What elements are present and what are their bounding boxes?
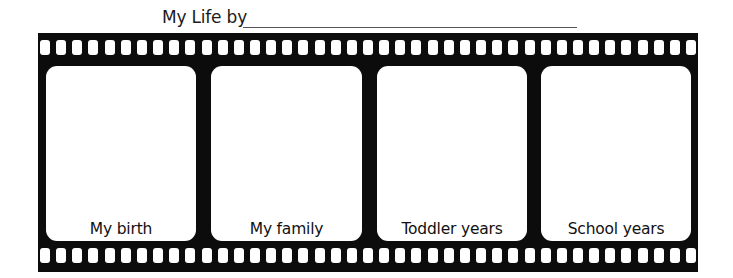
sprocket-hole (363, 40, 373, 55)
sprocket-hole (428, 40, 438, 55)
frame-my-family[interactable]: My family (211, 66, 362, 241)
sprocket-hole (476, 40, 486, 55)
sprocket-hole (541, 40, 551, 55)
sprocket-hole (379, 40, 389, 55)
sprocket-hole (137, 248, 147, 263)
sprocket-hole (460, 248, 470, 263)
sprocket-hole (72, 40, 82, 55)
sprocket-hole (56, 40, 66, 55)
worksheet-title: My Life by (0, 4, 733, 30)
sprocket-hole (266, 248, 276, 263)
sprocket-hole (573, 40, 583, 55)
sprocket-hole (218, 40, 228, 55)
sprocket-hole (56, 248, 66, 263)
sprocket-hole (105, 40, 115, 55)
frame-label: My family (211, 220, 362, 238)
sprocket-hole (218, 248, 228, 263)
sprocket-hole (525, 248, 535, 263)
sprocket-hole (573, 248, 583, 263)
sprocket-hole (298, 40, 308, 55)
sprocket-hole (40, 248, 50, 263)
sprocket-hole (105, 248, 115, 263)
sprocket-hole (121, 40, 131, 55)
sprocket-hole (331, 248, 341, 263)
sprocket-hole (72, 248, 82, 263)
sprocket-hole (347, 40, 357, 55)
sprocket-hole (298, 248, 308, 263)
sprocket-hole (363, 248, 373, 263)
sprocket-hole (202, 248, 212, 263)
sprocket-hole (492, 248, 502, 263)
sprocket-hole (395, 248, 405, 263)
sprocket-hole (508, 248, 518, 263)
sprocket-hole (476, 248, 486, 263)
frame-my-birth[interactable]: My birth (46, 66, 196, 241)
sprocket-hole (654, 248, 664, 263)
sprocket-hole (282, 40, 292, 55)
frame-label: Toddler years (377, 220, 527, 238)
sprocket-hole (444, 248, 454, 263)
sprocket-hole (234, 248, 244, 263)
sprocket-hole (137, 40, 147, 55)
sprocket-hole (670, 40, 680, 55)
sprocket-hole (315, 248, 325, 263)
frame-school-years[interactable]: School years (541, 66, 691, 241)
sprocket-row-bottom (40, 248, 696, 263)
sprocket-hole (621, 40, 631, 55)
sprocket-hole (686, 248, 696, 263)
sprocket-hole (444, 40, 454, 55)
sprocket-hole (347, 248, 357, 263)
sprocket-hole (621, 248, 631, 263)
sprocket-hole (605, 248, 615, 263)
sprocket-hole (121, 248, 131, 263)
sprocket-hole (169, 248, 179, 263)
sprocket-hole (605, 40, 615, 55)
sprocket-hole (492, 40, 502, 55)
sprocket-hole (411, 248, 421, 263)
sprocket-hole (169, 40, 179, 55)
sprocket-hole (153, 248, 163, 263)
sprocket-hole (686, 40, 696, 55)
sprocket-hole (379, 248, 389, 263)
sprocket-hole (331, 40, 341, 55)
sprocket-hole (185, 248, 195, 263)
sprocket-hole (638, 248, 648, 263)
sprocket-hole (670, 248, 680, 263)
sprocket-hole (88, 40, 98, 55)
sprocket-hole (428, 248, 438, 263)
sprocket-hole (315, 40, 325, 55)
title-label: My Life by (162, 7, 247, 27)
sprocket-hole (395, 40, 405, 55)
sprocket-hole (525, 40, 535, 55)
sprocket-hole (185, 40, 195, 55)
sprocket-hole (266, 40, 276, 55)
sprocket-hole (282, 248, 292, 263)
sprocket-hole (460, 40, 470, 55)
frame-label: School years (541, 220, 691, 238)
sprocket-hole (557, 40, 567, 55)
sprocket-hole (557, 248, 567, 263)
sprocket-hole (88, 248, 98, 263)
sprocket-hole (638, 40, 648, 55)
film-strip: My birth My family Toddler years School … (38, 33, 698, 272)
sprocket-hole (411, 40, 421, 55)
frame-toddler-years[interactable]: Toddler years (377, 66, 527, 241)
sprocket-row-top (40, 40, 696, 55)
sprocket-hole (508, 40, 518, 55)
sprocket-hole (40, 40, 50, 55)
name-blank-line[interactable] (243, 27, 577, 28)
sprocket-hole (589, 40, 599, 55)
sprocket-hole (153, 40, 163, 55)
sprocket-hole (654, 40, 664, 55)
sprocket-hole (589, 248, 599, 263)
sprocket-hole (250, 40, 260, 55)
sprocket-hole (541, 248, 551, 263)
sprocket-hole (234, 40, 244, 55)
sprocket-hole (202, 40, 212, 55)
frame-label: My birth (46, 220, 196, 238)
sprocket-hole (250, 248, 260, 263)
